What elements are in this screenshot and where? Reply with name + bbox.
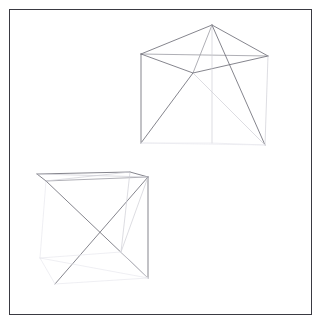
edge-mid_front-to-base_right	[193, 73, 265, 145]
edge-bot_back_right-to-bot_front_right	[121, 252, 148, 278]
edge-top_front_left-to-bot_back_left	[40, 181, 46, 258]
edge-apex-to-mid_front	[193, 25, 212, 73]
edge-bot_back_left-to-bot_front_right	[40, 258, 148, 278]
edge-top_front_right-to-bot_front_left	[55, 177, 148, 284]
edge-apex-to-base_right	[212, 25, 265, 145]
edge-top_left-to-mid_front	[141, 54, 193, 73]
edge-top_left-to-apex	[141, 25, 212, 54]
edge-top_right-to-base_right	[265, 56, 268, 145]
shape-upper-right	[141, 25, 268, 145]
edge-mid_front-to-base_left	[141, 73, 193, 143]
edge-top_front_left-to-top_back_left	[37, 174, 46, 181]
figure-canvas	[0, 0, 323, 329]
edge-bot_front_left-to-bot_front_right	[55, 278, 148, 284]
edge-top_back_left-to-top_front_right	[37, 174, 148, 177]
edge-apex-to-top_right	[212, 25, 268, 56]
edge-top_left-to-top_right	[141, 54, 268, 56]
wireframe-drawing	[0, 0, 323, 329]
edge-bot_back_left-to-bot_front_left	[40, 258, 55, 284]
edge-top_front_right-to-top_front_left	[46, 177, 148, 181]
edge-mid_front-to-top_right	[193, 56, 268, 73]
edge-bot_back_left-to-bot_back_right	[40, 252, 121, 258]
shape-lower-left	[37, 172, 148, 284]
